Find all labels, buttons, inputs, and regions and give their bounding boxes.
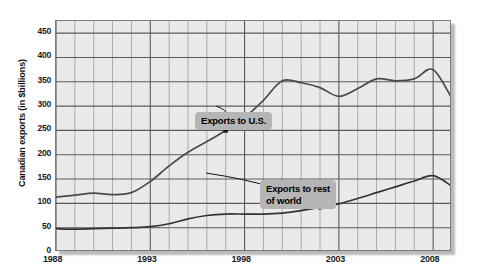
x-tick-label: 1993 (137, 254, 156, 264)
annotation-exports-to-us: Exports to U.S. (195, 112, 272, 130)
x-tick-label: 1998 (232, 254, 251, 264)
x-tick-label: 2008 (420, 254, 439, 264)
annotation-exports-to-rest-of-world: Exports to rest of world (260, 180, 336, 209)
x-axis-tick-labels: 19881993199820032008 (0, 0, 488, 277)
x-tick-label: 1988 (43, 254, 62, 264)
x-tick-label: 2003 (326, 254, 345, 264)
chart-figure: Canadian exports (in $billions) 05010015… (0, 0, 488, 277)
